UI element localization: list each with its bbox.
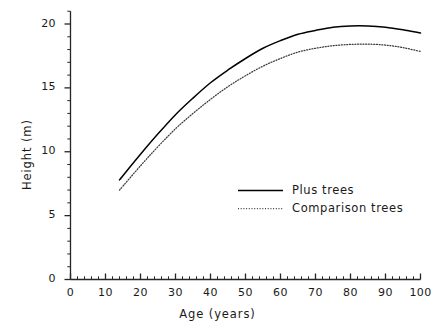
y-axis-title: Height (m) xyxy=(20,119,34,190)
x-tick-label: 90 xyxy=(368,286,404,299)
x-tick-label: 0 xyxy=(53,286,89,299)
x-axis-title: Age (years) xyxy=(0,307,435,321)
series-line-plus-trees xyxy=(120,26,421,180)
x-tick-label: 50 xyxy=(228,286,264,299)
x-tick-label: 70 xyxy=(298,286,334,299)
x-tick-label: 40 xyxy=(193,286,229,299)
data-series xyxy=(120,26,421,190)
legend-label-plus-trees: Plus trees xyxy=(292,183,354,197)
x-tick-label: 60 xyxy=(263,286,299,299)
y-tick-label: 5 xyxy=(22,208,56,221)
y-tick-label: 0 xyxy=(22,272,56,285)
x-tick-label: 100 xyxy=(403,286,435,299)
legend-label-comparison-trees: Comparison trees xyxy=(292,201,403,215)
axes xyxy=(65,11,421,279)
series-line-comparison-trees xyxy=(120,44,421,190)
y-tick-label: 15 xyxy=(22,80,56,93)
x-tick-label: 20 xyxy=(123,286,159,299)
chart-figure: 05101520 0102030405060708090100 Height (… xyxy=(0,0,435,336)
legend-sample-lines xyxy=(238,191,283,209)
y-tick-label: 20 xyxy=(22,17,56,30)
x-tick-label: 30 xyxy=(158,286,194,299)
x-tick-label: 80 xyxy=(333,286,369,299)
x-tick-label: 10 xyxy=(88,286,124,299)
